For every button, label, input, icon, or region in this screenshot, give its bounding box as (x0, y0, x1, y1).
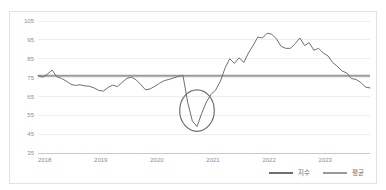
y-tick-label: 55 (27, 112, 34, 118)
y-tick-label: 35 (27, 150, 34, 156)
chart-legend: 지수 평균 (269, 168, 364, 177)
y-tick-label: 105 (24, 18, 35, 24)
y-axis-ticks-group: 10595857565554535 (24, 18, 35, 156)
x-axis-ticks-group: 201820192020202120222023 (38, 157, 333, 163)
gridlines-group (38, 21, 370, 153)
x-tick-label: 2018 (38, 157, 52, 163)
y-tick-label: 65 (27, 94, 34, 100)
legend-label-series: 지수 (298, 168, 310, 177)
y-tick-label: 75 (27, 75, 34, 81)
x-tick-label: 2022 (262, 157, 276, 163)
y-tick-label: 45 (27, 131, 34, 137)
x-tick-label: 2023 (319, 157, 333, 163)
x-tick-label: 2019 (94, 157, 108, 163)
chart-plot-area: 10595857565554535 2018201920202021202220… (10, 12, 378, 185)
legend-label-average: 평균 (352, 168, 364, 176)
chart-card: 10595857565554535 2018201920202021202220… (9, 11, 377, 184)
x-tick-label: 2020 (150, 157, 164, 163)
y-tick-label: 85 (27, 56, 34, 62)
x-tick-label: 2021 (206, 157, 220, 163)
index-series-line (38, 33, 370, 126)
y-tick-label: 95 (27, 37, 34, 43)
line-chart: 10595857565554535 2018201920202021202220… (10, 12, 378, 185)
